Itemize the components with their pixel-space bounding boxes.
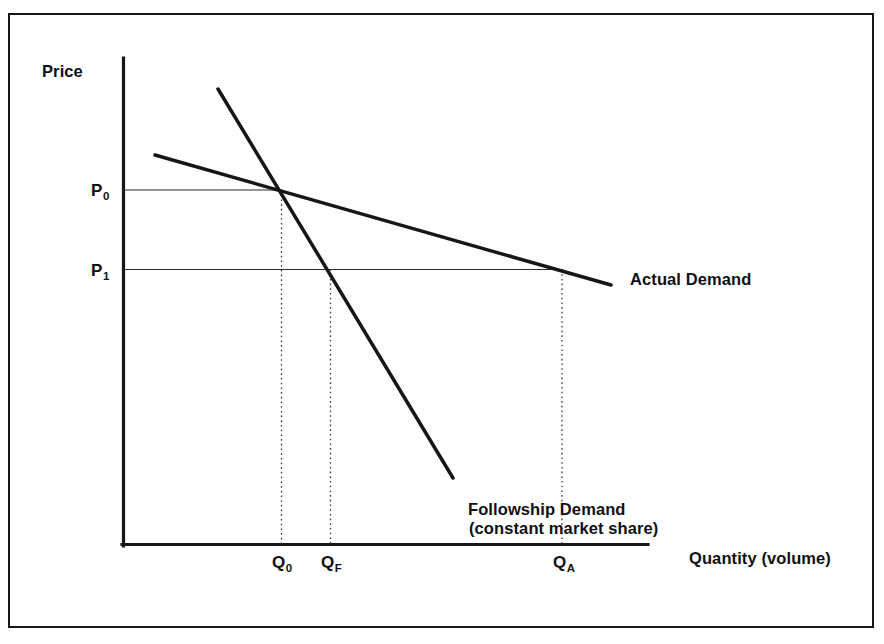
x-axis-title: Quantity (volume) <box>689 549 831 568</box>
y-tick-label-p0: P0 <box>91 181 109 201</box>
y-tick-p0-subscript: 0 <box>103 190 110 202</box>
followship-demand-label: Followship Demand (constant market share… <box>468 500 658 539</box>
x-tick-q0-base: Q <box>272 553 285 572</box>
x-tick-qa-subscript: A <box>567 562 575 574</box>
figure-frame-border <box>8 13 874 628</box>
followship-demand-label-line2: (constant market share) <box>469 519 658 538</box>
x-tick-qf-subscript: F <box>335 562 342 574</box>
x-tick-q0-subscript: 0 <box>286 562 293 574</box>
x-tick-qf-base: Q <box>321 553 334 572</box>
y-tick-p1-subscript: 1 <box>103 270 110 282</box>
y-tick-label-p1: P1 <box>91 261 109 281</box>
x-tick-qa-base: Q <box>553 553 566 572</box>
followship-demand-label-line1: Followship Demand <box>468 500 626 518</box>
y-tick-p0-base: P <box>91 181 102 200</box>
figure-root: Price Quantity (volume) P0 P1 Q0 QF QA A… <box>0 0 884 644</box>
x-tick-label-q0: Q0 <box>272 553 292 573</box>
y-tick-p1-base: P <box>91 261 102 280</box>
y-axis-title: Price <box>42 62 83 81</box>
x-tick-label-qa: QA <box>553 553 575 573</box>
x-tick-label-qf: QF <box>321 553 341 573</box>
actual-demand-label: Actual Demand <box>630 270 751 289</box>
